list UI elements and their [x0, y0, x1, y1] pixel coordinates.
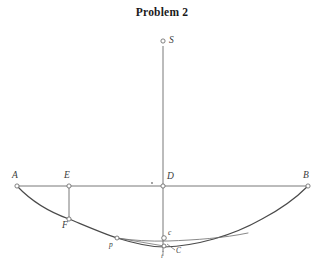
label-s: S: [169, 36, 174, 46]
dot-near-d: [151, 182, 153, 184]
label-d: D: [167, 172, 174, 182]
label-e: E: [64, 171, 70, 181]
geometry-diagram: [0, 0, 324, 276]
point-marker-a: [15, 184, 19, 188]
label-b: B: [303, 171, 309, 181]
point-marker-e: [67, 184, 71, 188]
point-marker-d: [161, 184, 165, 188]
label-p: p: [109, 241, 113, 249]
label-a: A: [12, 171, 18, 181]
point-marker-b: [306, 184, 310, 188]
point-marker-c-upper: [162, 244, 166, 248]
point-marker-c-lower: [162, 236, 167, 241]
label-f: F: [62, 221, 68, 231]
label-c-lower: c: [168, 229, 171, 237]
label-c-upper: C: [176, 247, 181, 255]
figure-page: Problem 2 S A E D B F: [0, 0, 324, 276]
point-marker-p: [115, 236, 119, 240]
label-i-tick: i: [161, 253, 163, 260]
point-marker-s: [161, 39, 165, 43]
